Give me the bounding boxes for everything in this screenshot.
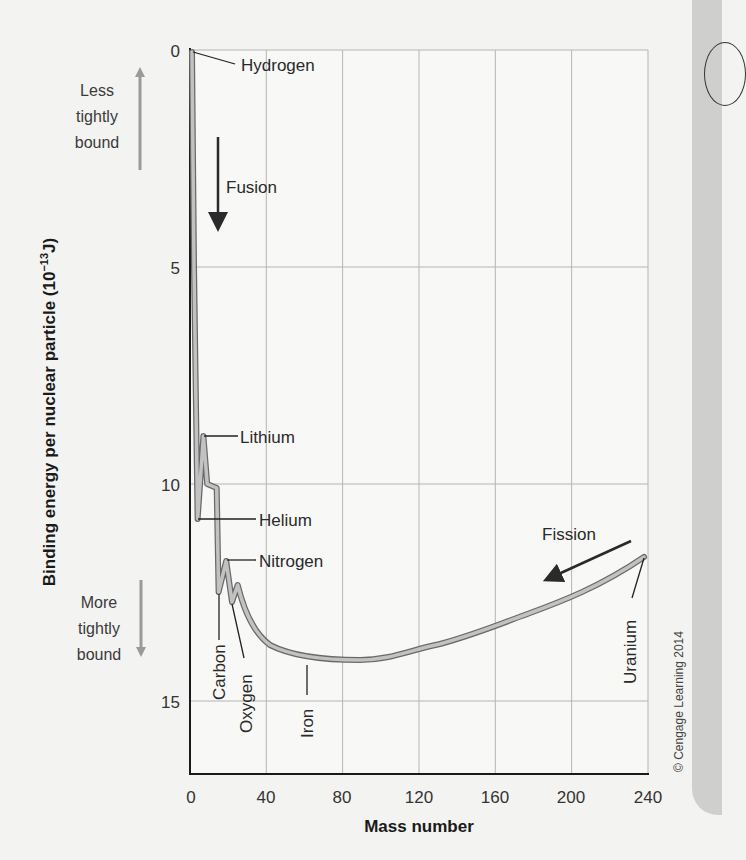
more-tightly-bound-note: More tightly bound [77,580,141,663]
svg-text:Iron: Iron [298,709,317,738]
svg-text:Helium: Helium [259,511,312,530]
y-tick-5: 5 [171,259,180,278]
x-tick-0: 0 [186,788,195,807]
copyright-notice: © Cengage Learning 2014 [672,631,686,772]
svg-text:Nitrogen: Nitrogen [259,552,323,571]
svg-text:Lithium: Lithium [240,428,295,447]
x-tick-240: 240 [634,788,662,807]
y-axis-title: Binding energy per nuclear particle (10−… [38,238,59,586]
svg-text:bound: bound [77,646,122,663]
svg-text:Fusion: Fusion [226,178,277,197]
x-tick-200: 200 [557,788,585,807]
x-tick-160: 160 [481,788,509,807]
less-tightly-bound-note: Less tightly bound [75,72,140,170]
y-tick-15: 15 [161,693,180,712]
svg-text:tightly: tightly [76,108,118,125]
x-tick-120: 120 [405,788,433,807]
x-tick-80: 80 [333,788,352,807]
svg-text:tightly: tightly [78,620,120,637]
svg-text:Fission: Fission [542,525,596,544]
svg-text:More: More [81,594,118,611]
x-tick-labels: 0 40 80 120 160 200 240 [186,788,662,807]
svg-text:Hydrogen: Hydrogen [241,56,315,75]
svg-text:Uranium: Uranium [621,620,640,684]
x-tick-40: 40 [257,788,276,807]
y-tick-0: 0 [171,42,180,61]
svg-text:Less: Less [80,82,114,99]
y-tick-10: 10 [161,476,180,495]
x-axis-title: Mass number [364,817,474,836]
y-tick-labels: 0 5 10 15 [161,42,180,712]
svg-text:bound: bound [75,134,120,151]
svg-text:Carbon: Carbon [210,644,229,700]
svg-text:Oxygen: Oxygen [237,674,256,733]
